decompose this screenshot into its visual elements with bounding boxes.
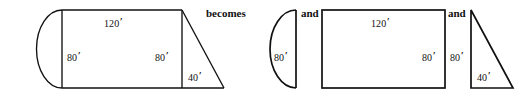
triangle-height-label: 80′ bbox=[450, 51, 464, 63]
prime-mark: ′ bbox=[488, 70, 491, 81]
semicircle-diameter-label: 80′ bbox=[274, 51, 288, 63]
connector-and-first: and bbox=[301, 8, 319, 19]
connector-becomes: becomes bbox=[206, 8, 246, 19]
composite-top-length-label: 120′ bbox=[104, 17, 123, 29]
prime-mark: ′ bbox=[433, 50, 436, 61]
prime-mark: ′ bbox=[199, 70, 202, 81]
prime-mark: ′ bbox=[461, 50, 464, 61]
geometry-decomposition-figure: 120′ 80′ 80′ 40′ becomes and and 80′ 120… bbox=[0, 0, 521, 99]
rectangle-height-label: 80′ bbox=[422, 51, 436, 63]
triangle-base-label: 40′ bbox=[477, 71, 491, 83]
composite-left-height-label: 80′ bbox=[67, 51, 81, 63]
connector-and-second: and bbox=[448, 8, 466, 19]
prime-mark: ′ bbox=[387, 16, 390, 27]
composite-semicircle-end bbox=[37, 10, 62, 88]
prime-mark: ′ bbox=[285, 50, 288, 61]
semicircle-arc bbox=[270, 10, 296, 88]
composite-triangle-base-label: 40′ bbox=[188, 71, 202, 83]
rectangle-width-label: 120′ bbox=[371, 17, 390, 29]
composite-right-height-label: 80′ bbox=[155, 51, 169, 63]
prime-mark: ′ bbox=[78, 50, 81, 61]
prime-mark: ′ bbox=[166, 50, 169, 61]
prime-mark: ′ bbox=[120, 16, 123, 27]
semicircle-piece-drawing bbox=[270, 10, 296, 88]
